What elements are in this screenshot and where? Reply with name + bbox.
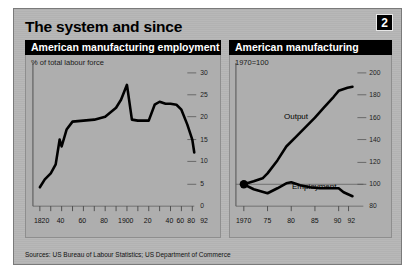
xtick-1960: 60 — [176, 217, 184, 224]
sources-note: Sources: US Bureau of Labour Statistics;… — [25, 251, 231, 258]
chart-employment-plot: % of total labour force 30 — [25, 55, 221, 238]
employment-share-line — [40, 85, 194, 187]
chart-manufacturing-xtick-marks — [244, 206, 349, 211]
ytick-25: 25 — [200, 91, 208, 98]
ytick-15: 15 — [200, 136, 208, 143]
figure-container: The system and since 2 American manufact… — [13, 8, 402, 265]
ytick-180: 180 — [369, 91, 380, 98]
ytick-5: 5 — [200, 180, 204, 187]
chart-manufacturing-plot: 1970=100 Output Employment — [229, 55, 392, 238]
ytick-200: 200 — [369, 69, 380, 76]
page-title: The system and since — [25, 18, 182, 36]
chart-employment-xtick-marks — [40, 206, 192, 211]
chart-employment-yticks: 30 25 20 15 10 5 0 — [187, 69, 208, 209]
ytick-10: 10 — [200, 157, 208, 164]
xtick-1990: 90 — [334, 217, 342, 224]
output-line — [244, 87, 353, 184]
chart-manufacturing-title: American manufacturing — [229, 40, 392, 55]
chart-manufacturing-yticks: 200 180 160 140 120 100 80 — [357, 69, 380, 209]
xtick-1820: 1820 — [34, 217, 50, 224]
xtick-1860: 60 — [78, 217, 86, 224]
xtick-1840: 40 — [57, 217, 65, 224]
xtick-1920: 20 — [144, 217, 152, 224]
chart-manufacturing-xticks: 1970 75 80 85 90 92 — [236, 217, 355, 224]
chart-manufacturing: American manufacturing 1970=100 Output E… — [229, 40, 392, 238]
xtick-1975: 75 — [264, 217, 272, 224]
chart-employment-title: American manufacturing employment — [25, 40, 221, 55]
xtick-1880: 80 — [100, 217, 108, 224]
ytick-0: 0 — [200, 202, 204, 209]
xtick-1900: 1900 — [118, 217, 134, 224]
xtick-1992: 92 — [348, 217, 356, 224]
ytick-20: 20 — [200, 113, 208, 120]
xtick-1940: 40 — [166, 217, 174, 224]
chart-manufacturing-svg: 200 180 160 140 120 100 80 — [230, 55, 391, 237]
panel-number-badge: 2 — [376, 14, 393, 31]
xtick-1985: 85 — [311, 217, 319, 224]
ytick-30: 30 — [200, 69, 208, 76]
chart-employment-xticks: 1820 40 60 80 1900 20 40 60 80 92 — [34, 217, 208, 224]
xtick-1970: 1970 — [236, 217, 251, 224]
xtick-1980: 80 — [187, 217, 195, 224]
ytick-80: 80 — [369, 202, 377, 209]
ytick-100: 100 — [369, 180, 380, 187]
ytick-160: 160 — [369, 114, 380, 121]
figure-background: The system and since 2 American manufact… — [14, 9, 401, 264]
ytick-140: 140 — [369, 136, 380, 143]
chart-employment: American manufacturing employment % of t… — [25, 40, 221, 238]
ytick-120: 120 — [369, 158, 380, 165]
origin-dot-marker — [240, 180, 248, 188]
xtick-1980: 80 — [287, 217, 295, 224]
xtick-1992: 92 — [200, 217, 208, 224]
chart-employment-svg: 30 25 20 15 10 5 0 — [26, 55, 220, 237]
